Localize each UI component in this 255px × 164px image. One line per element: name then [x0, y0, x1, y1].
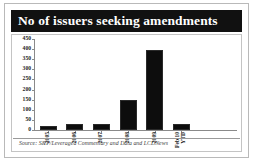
y-axis-tick-mark [32, 39, 34, 40]
y-axis-tick-mark [32, 59, 34, 60]
bar [66, 124, 83, 130]
y-axis-tick-mark [32, 90, 34, 91]
y-axis-tick-mark [32, 49, 34, 50]
source-divider [13, 138, 240, 139]
bar [93, 124, 110, 130]
y-axis-tick-mark [32, 79, 34, 80]
x-axis-slot: Feb 10YTD [168, 131, 195, 157]
chart-plot-frame: 050100150200250300350400450 200520062007… [11, 34, 242, 152]
bar-series [35, 39, 236, 130]
bar [40, 126, 57, 130]
y-axis-tick-mark [32, 100, 34, 101]
y-axis-tick-mark [32, 110, 34, 111]
y-axis-tick-mark [32, 120, 34, 121]
bar-slot [62, 39, 89, 130]
source-note: Source: S&P/Leveraged Commentary and Dat… [19, 140, 168, 146]
bar-slot [115, 39, 142, 130]
bar [146, 50, 163, 130]
chart-card: No of issuers seeking amendments 0501001… [4, 3, 249, 158]
x-axis-tick-label: Feb 10YTD [175, 132, 187, 148]
bar-slot [35, 39, 62, 130]
bar-slot [168, 39, 195, 130]
y-axis-tick-mark [32, 130, 34, 131]
chart-title-banner: No of issuers seeking amendments [11, 10, 242, 32]
y-axis-tick-mark [32, 69, 34, 70]
bar-slot [141, 39, 168, 130]
page-title: No of issuers seeking amendments [11, 13, 218, 29]
bar-slot [88, 39, 115, 130]
bar [120, 100, 137, 130]
bar [173, 124, 190, 130]
